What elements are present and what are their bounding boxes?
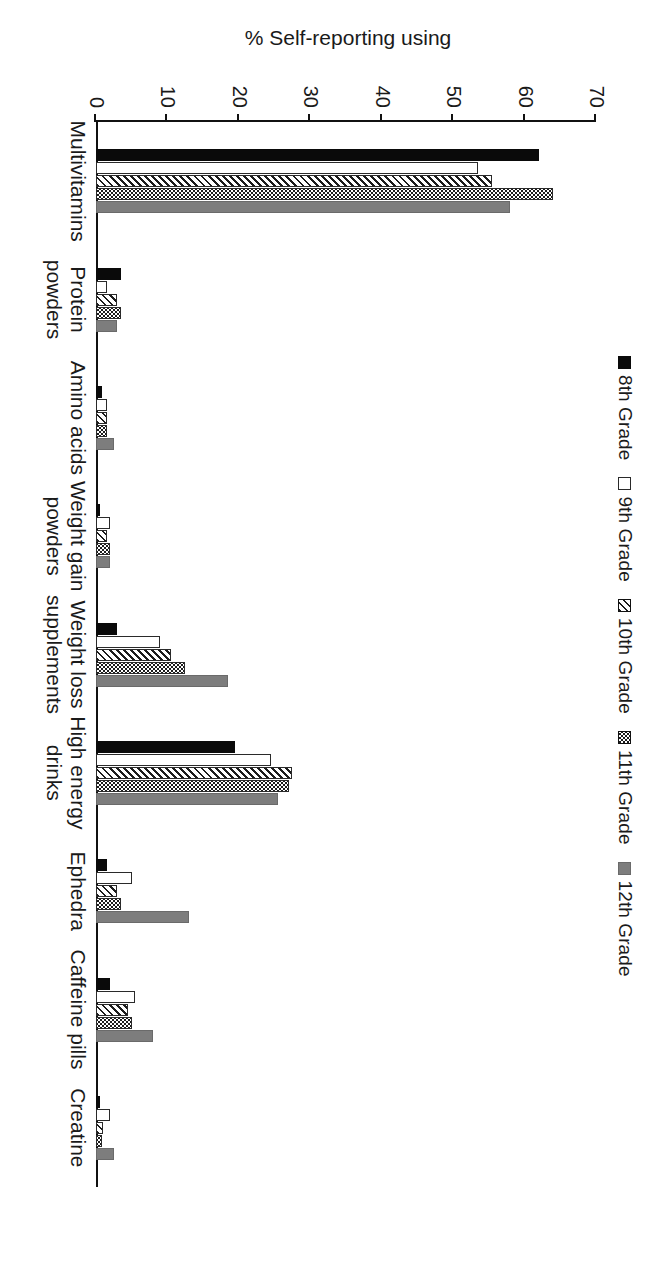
bar — [96, 294, 117, 306]
y-tick-mark — [94, 114, 96, 122]
category-label: Weight loss supplements — [43, 595, 90, 714]
category-label: High energy drinks — [43, 716, 90, 829]
bar — [96, 320, 117, 332]
bar — [96, 662, 185, 674]
category-label: Amino acids — [66, 361, 90, 475]
bar — [96, 872, 132, 884]
legend-label-8th-grade: 8th Grade — [614, 375, 636, 460]
legend-item-12th-grade: 12th Grade — [614, 862, 636, 977]
legend-item-9th-grade: 9th Grade — [614, 477, 636, 581]
legend-label-10th-grade: 10th Grade — [614, 618, 636, 714]
y-tick-label: 40 — [370, 86, 393, 108]
bar-group — [96, 149, 596, 213]
legend-item-11th-grade: 11th Grade — [614, 731, 636, 845]
bar-chart-figure: 8th Grade 9th Grade 10th Grade 11th Grad… — [0, 0, 658, 1270]
bar-group — [96, 859, 596, 923]
bar — [96, 754, 271, 766]
bar — [96, 386, 102, 398]
y-tick-mark — [380, 114, 382, 122]
category-label: Ephedra — [66, 851, 90, 930]
bar — [96, 307, 121, 319]
legend-item-8th-grade: 8th Grade — [614, 356, 636, 460]
bar — [96, 1096, 100, 1108]
legend-swatch-icon-9th-grade — [619, 477, 632, 490]
y-tick-mark — [308, 114, 310, 122]
y-tick-label: 20 — [227, 86, 250, 108]
bar — [96, 1030, 153, 1042]
y-tick-mark — [523, 114, 525, 122]
bar — [96, 649, 171, 661]
bar — [96, 1122, 103, 1134]
bar — [96, 517, 110, 529]
value-axis: 010203040506070 % Self-reporting using — [96, 0, 596, 122]
category-label: Weight gain powders — [43, 481, 90, 592]
bar — [96, 885, 117, 897]
bar-group — [96, 504, 596, 568]
bar — [96, 1148, 114, 1160]
category-label: Protein powders — [43, 260, 90, 339]
bar — [96, 1135, 102, 1147]
legend-label-12th-grade: 12th Grade — [614, 881, 636, 977]
bar — [96, 412, 107, 424]
bar-group — [96, 1096, 596, 1160]
bar — [96, 268, 121, 280]
bar — [96, 991, 135, 1003]
bar — [96, 793, 278, 805]
bar — [96, 504, 100, 516]
category-axis-labels: MultivitaminsProtein powdersAmino acidsW… — [6, 122, 90, 1187]
y-tick-label: 0 — [85, 97, 108, 108]
bar — [96, 281, 107, 293]
y-tick-label: 60 — [513, 86, 536, 108]
bar-group — [96, 623, 596, 687]
bar-group — [96, 386, 596, 450]
y-tick-mark — [594, 114, 596, 122]
bar — [96, 767, 292, 779]
bar — [96, 425, 107, 437]
y-tick-label: 30 — [299, 86, 322, 108]
bar — [96, 623, 117, 635]
bar — [96, 636, 160, 648]
bar — [96, 438, 114, 450]
y-tick-label: 10 — [156, 86, 179, 108]
bar-group — [96, 978, 596, 1042]
y-axis-title: % Self-reporting using — [168, 26, 528, 50]
category-label: Multivitamins — [66, 120, 90, 241]
legend-label-11th-grade: 11th Grade — [614, 750, 636, 845]
bar — [96, 530, 107, 542]
legend-swatch-icon-11th-grade — [619, 731, 632, 744]
bar — [96, 201, 510, 213]
bar — [96, 898, 121, 910]
bar-group — [96, 268, 596, 332]
bar — [96, 1017, 132, 1029]
rotated-figure-wrapper: 8th Grade 9th Grade 10th Grade 11th Grad… — [0, 0, 658, 1270]
bar — [96, 162, 478, 174]
plot-area — [96, 122, 596, 1187]
bar — [96, 543, 110, 555]
bar — [96, 149, 539, 161]
legend-label-9th-grade: 9th Grade — [614, 496, 636, 581]
bar — [96, 1004, 128, 1016]
bar — [96, 780, 289, 792]
bar — [96, 978, 110, 990]
y-tick-mark — [237, 114, 239, 122]
legend-swatch-icon-10th-grade — [619, 599, 632, 612]
bar — [96, 175, 492, 187]
category-label: Creatine — [66, 1088, 90, 1167]
bar — [96, 1109, 110, 1121]
y-tick-label: 50 — [442, 86, 465, 108]
bar — [96, 911, 189, 923]
y-tick-mark — [165, 114, 167, 122]
bar — [96, 399, 107, 411]
bar — [96, 859, 107, 871]
legend-item-10th-grade: 10th Grade — [614, 599, 636, 714]
y-tick-mark — [451, 114, 453, 122]
bar-group — [96, 741, 596, 805]
y-tick-label: 70 — [585, 86, 608, 108]
category-label: Caffeine pills — [66, 950, 90, 1070]
bar — [96, 675, 228, 687]
legend-swatch-icon-8th-grade — [619, 356, 632, 369]
chart-legend: 8th Grade 9th Grade 10th Grade 11th Grad… — [614, 356, 636, 977]
bar — [96, 188, 553, 200]
bar — [96, 556, 110, 568]
bar — [96, 741, 235, 753]
